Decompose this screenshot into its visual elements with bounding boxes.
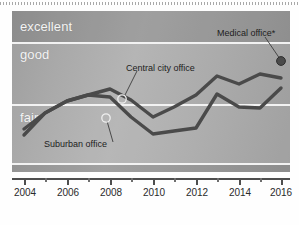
x-tick-2009 — [131, 178, 133, 182]
x-axis-label-2008: 2008 — [100, 187, 122, 198]
x-tick-2013 — [217, 178, 219, 182]
x-tick-2008 — [110, 178, 112, 185]
quality-rating-line-chart: excellent good fair poor Medical office*… — [0, 0, 299, 225]
x-axis-label-2006: 2006 — [57, 187, 79, 198]
x-tick-2014 — [239, 178, 241, 185]
marker-suburban-office — [102, 114, 110, 122]
x-tick-2016 — [281, 178, 283, 185]
annotation-medical-office: Medical office* — [217, 29, 275, 38]
series-line-central-suburban — [24, 88, 281, 134]
x-axis-label-2010: 2010 — [143, 187, 165, 198]
x-axis-line — [12, 178, 290, 180]
x-tick-2015 — [260, 178, 262, 182]
x-tick-2011 — [174, 178, 176, 182]
x-axis-label-2016: 2016 — [270, 187, 292, 198]
leader-line-central-city-office — [124, 71, 137, 97]
x-tick-2006 — [67, 178, 69, 185]
leader-line-medical-office — [265, 37, 280, 59]
x-axis-label-2014: 2014 — [229, 187, 251, 198]
x-tick-2007 — [88, 178, 90, 182]
x-axis-label-2012: 2012 — [186, 187, 208, 198]
scan-artifact-strip — [0, 2, 299, 5]
x-axis-label-2004: 2004 — [14, 187, 36, 198]
leader-line-suburban-office — [107, 121, 113, 142]
x-tick-2012 — [196, 178, 198, 185]
marker-medical-office — [277, 57, 286, 66]
x-tick-2010 — [153, 178, 155, 185]
annotation-central-city-office: Central city office — [126, 64, 195, 73]
x-tick-2004 — [24, 178, 26, 185]
x-tick-2005 — [45, 178, 47, 182]
annotation-suburban-office: Suburban office — [44, 140, 107, 149]
